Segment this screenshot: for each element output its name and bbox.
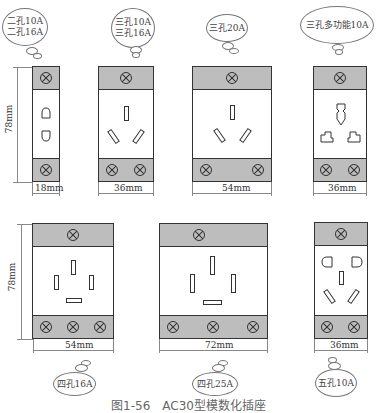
screw-icon xyxy=(334,72,346,84)
screw-icon xyxy=(40,164,52,176)
terminal-band-top xyxy=(315,223,367,246)
terminal-band-bottom xyxy=(33,158,59,181)
screw-icon xyxy=(67,321,79,333)
screw-icon xyxy=(40,321,52,333)
width-dimension-line xyxy=(314,350,368,351)
screw-icon xyxy=(320,164,332,176)
dimension-tick xyxy=(13,67,33,68)
universal-neutral-slot-icon xyxy=(347,131,361,143)
width-dimension-line xyxy=(192,193,272,194)
neutral-pin-slot xyxy=(347,289,360,304)
socket-module-multi-function xyxy=(313,66,367,182)
earth-pin-slot xyxy=(230,105,235,120)
bubble-puff xyxy=(75,364,88,372)
terminal-band-top xyxy=(33,224,113,247)
earth-pin-slot xyxy=(210,256,215,275)
bubble-puff xyxy=(335,49,343,55)
terminal-band-top xyxy=(193,67,271,90)
screw-icon xyxy=(94,321,106,333)
phase-pin-slot-right xyxy=(89,275,94,290)
neutral-pin-slot xyxy=(203,300,222,305)
terminal-band-bottom xyxy=(193,158,271,181)
earth-pin-slot xyxy=(339,271,344,285)
label-bubble-four-pin-25a: 四孔25A xyxy=(192,372,238,396)
bubble-text: 三孔10A xyxy=(115,17,151,28)
terminal-band-top xyxy=(314,67,366,90)
width-dimension-line xyxy=(98,193,154,194)
label-bubble-three-pin-20a: 三孔20A xyxy=(206,14,248,42)
dimension-tick xyxy=(17,339,33,340)
label-bubble-three-pin: 三孔10A 三孔16A xyxy=(111,8,155,48)
dimension-tick xyxy=(13,182,33,183)
round-pin-slot-icon xyxy=(40,107,52,119)
line-pin-slot xyxy=(323,289,336,304)
phase-pin-slot-left xyxy=(54,275,59,290)
round-pin-slot-icon xyxy=(40,130,52,142)
screw-icon xyxy=(106,164,118,176)
socket-module-two-pin xyxy=(32,66,60,182)
socket-module-four-pin-16a xyxy=(32,223,114,339)
screw-icon xyxy=(200,164,212,176)
bubble-text: 四孔16A xyxy=(57,379,93,390)
terminal-band-bottom xyxy=(33,315,113,338)
socket-module-five-pin xyxy=(314,222,368,339)
height-dimension-label: 78mm xyxy=(4,104,14,134)
width-dimension-label: 18mm xyxy=(35,183,64,193)
width-dimension-label: 36mm xyxy=(328,183,357,193)
bubble-puff xyxy=(33,53,42,59)
height-dimension-label: 78mm xyxy=(7,262,17,292)
screw-icon xyxy=(40,72,52,84)
terminal-band-bottom xyxy=(314,158,366,181)
phase-pin-slot-right xyxy=(231,274,236,293)
terminal-band-bottom xyxy=(99,158,153,181)
screw-icon xyxy=(348,164,360,176)
height-dimension-line xyxy=(21,224,22,339)
bubble-puff xyxy=(212,364,225,372)
screw-icon xyxy=(207,321,219,333)
label-bubble-multi-function: 三孔多功能10A xyxy=(300,6,374,44)
terminal-band-top xyxy=(160,224,267,247)
socket-module-three-pin xyxy=(98,66,154,182)
bubble-text: 三孔多功能10A xyxy=(306,20,369,31)
bubble-text: 二孔16A xyxy=(7,27,43,38)
earth-pin-slot xyxy=(124,106,129,121)
bubble-text: 四孔25A xyxy=(197,379,233,390)
earth-pin-slot xyxy=(71,260,76,275)
width-dimension-label: 54mm xyxy=(65,340,94,350)
width-dimension-line xyxy=(33,350,113,351)
dimension-tick xyxy=(113,339,114,353)
width-dimension-label: 72mm xyxy=(205,340,234,350)
screw-icon xyxy=(167,321,179,333)
screw-icon xyxy=(67,229,79,241)
terminal-band-top xyxy=(33,67,59,90)
width-dimension-label: 36mm xyxy=(114,183,143,193)
socket-module-four-pin-25a xyxy=(159,223,268,339)
neutral-pin-slot xyxy=(132,129,145,144)
universal-line-slot-icon xyxy=(320,131,334,143)
width-dimension-label: 36mm xyxy=(330,340,359,350)
screw-icon xyxy=(348,321,360,333)
bubble-text: 三孔16A xyxy=(115,28,151,39)
terminal-band-bottom xyxy=(315,315,367,338)
screw-icon xyxy=(120,72,132,84)
two-pin-slot-right-icon xyxy=(351,256,363,268)
terminal-band-bottom xyxy=(160,315,267,338)
socket-module-three-pin-20a xyxy=(192,66,272,182)
width-dimension-line xyxy=(159,350,268,351)
label-bubble-four-pin-16a: 四孔16A xyxy=(53,372,96,396)
width-dimension-line xyxy=(313,193,367,194)
width-dimension-label: 54mm xyxy=(222,183,251,193)
universal-earth-slot-icon xyxy=(334,103,348,127)
two-pin-slot-left-icon xyxy=(321,256,333,268)
bubble-puff xyxy=(229,48,239,54)
screw-icon xyxy=(226,72,238,84)
bubble-text: 三孔20A xyxy=(209,23,245,34)
width-dimension-line xyxy=(32,193,60,194)
screw-icon xyxy=(321,321,333,333)
terminal-band-top xyxy=(99,67,153,90)
label-bubble-five-pin: 五孔10A xyxy=(315,369,357,397)
neutral-pin-slot xyxy=(239,128,252,143)
figure-caption: 图1-56 AC30型模数化插座 xyxy=(0,396,377,413)
label-bubble-two-pin: 二孔10A 二孔16A xyxy=(2,8,48,46)
bubble-text: 二孔10A xyxy=(7,16,43,27)
